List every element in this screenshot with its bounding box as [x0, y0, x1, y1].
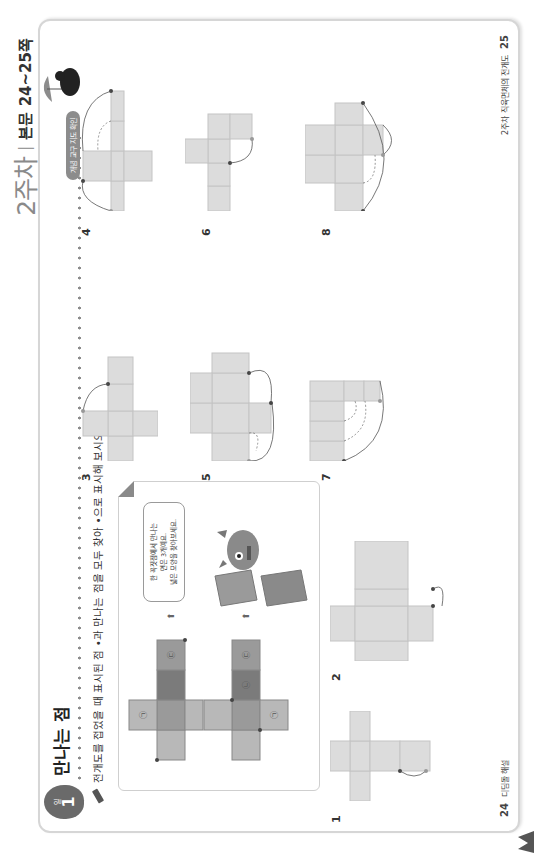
- dragon-mascot-icon: [215, 518, 263, 578]
- problem-5-number: 5: [200, 473, 213, 481]
- left-page-number: 24: [499, 803, 510, 817]
- problem-6-net[interactable]: [185, 101, 275, 211]
- problem-1-net[interactable]: [330, 711, 450, 801]
- cat-ears-icon: [514, 827, 534, 855]
- week-label: 2주차: [6, 157, 42, 216]
- day-badge: 일 1: [44, 785, 84, 819]
- problem-4-number: 4: [80, 228, 93, 236]
- problem-3-net[interactable]: [78, 351, 158, 461]
- svg-text:⬆: ⬆: [241, 612, 251, 620]
- lesson-title: 만나는 점: [48, 706, 73, 776]
- problem-1-number: 1: [330, 815, 343, 823]
- left-footer-text: 디딤돌 해설: [499, 760, 510, 798]
- workbook-page: 일 1 만나는 점 개념 교구 지도 확인 전개도를 접었을 때 표시된 점 •…: [38, 19, 520, 833]
- example-net-a: ㉠ ㉡ ㉢: [204, 640, 288, 760]
- svg-text:㉢: ㉢: [167, 651, 176, 659]
- problem-5-net[interactable]: [190, 351, 280, 461]
- svg-text:㉠: ㉠: [139, 711, 148, 719]
- page-range-label: 본문 24~25쪽: [14, 38, 35, 140]
- right-footer-text: 2주차 직육면체의 전개도: [499, 55, 510, 135]
- worksheet-spread: 2주차 | 본문 24~25쪽 일 1 만나는 점 개념 교구 지도 확인 전개…: [0, 0, 555, 858]
- footer-right: 2주차 직육면체의 전개도 25: [499, 35, 510, 135]
- umbrella-mascot-icon: [38, 66, 82, 106]
- problem-2-net[interactable]: [330, 541, 450, 661]
- hint-speech-bubble: 한 꼭짓점에서 만나는 면은 3개예요. 넓은 모양을 찾아보세요.: [143, 502, 185, 602]
- footer-left: 24 디딤돌 해설: [499, 760, 510, 817]
- problem-7-net[interactable]: [305, 341, 405, 461]
- problem-3-number: 3: [80, 473, 93, 481]
- svg-text:⬆: ⬆: [166, 612, 176, 620]
- problem-4-net[interactable]: [78, 81, 158, 211]
- instruction: 전개도를 접었을 때 표시된 점 •과 만나는 점을 모두 찾아 •으로 표시해…: [90, 427, 105, 803]
- problem-8-number: 8: [320, 228, 333, 236]
- example-net-b: ㉠ ㉢: [129, 638, 203, 762]
- header-separator: |: [15, 146, 34, 151]
- problem-8-net[interactable]: [305, 91, 405, 211]
- svg-text:㉢: ㉢: [242, 651, 251, 659]
- problem-7-number: 7: [320, 473, 333, 481]
- right-page-number: 25: [499, 35, 510, 49]
- svg-text:㉠: ㉠: [270, 711, 279, 719]
- problem-2-number: 2: [330, 673, 343, 681]
- day-number: 1: [62, 796, 76, 807]
- problem-6-number: 6: [200, 228, 213, 236]
- example-nets-diagram: ㉠ ㉡ ㉢ ㉠ ㉢: [127, 600, 313, 780]
- svg-text:㉡: ㉡: [242, 681, 251, 689]
- folded-corner-icon: [118, 481, 134, 497]
- example-box: ㉠ ㉡ ㉢ ㉠ ㉢: [118, 481, 320, 791]
- pencil-icon: [91, 788, 103, 803]
- week-header: 2주차 | 본문 24~25쪽: [6, 38, 42, 216]
